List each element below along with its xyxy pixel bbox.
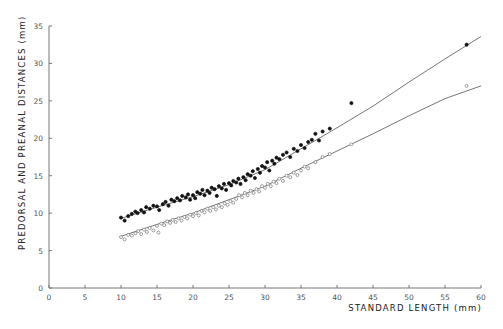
predorsal-point (263, 166, 266, 169)
predorsal-point (222, 182, 225, 185)
predorsal-point (189, 198, 192, 201)
predorsal-point (465, 43, 468, 46)
preanal-point (145, 230, 148, 233)
y-tick-label: 15 (33, 172, 43, 181)
y-tick-label: 0 (38, 284, 43, 293)
preanal-point (215, 208, 218, 211)
x-tick-label: 20 (188, 293, 198, 302)
predorsal-point (310, 138, 313, 141)
preanal-point (269, 185, 272, 188)
preanal-point (152, 229, 155, 232)
x-tick-label: 50 (404, 293, 414, 302)
preanal-point (223, 202, 226, 205)
preanal-point (292, 171, 295, 174)
preanal-point (197, 214, 200, 217)
predorsal-point (242, 176, 245, 179)
predorsal-point (237, 177, 240, 180)
preanal-point (209, 209, 212, 212)
predorsal-point (217, 185, 220, 188)
preanal-point (192, 215, 195, 218)
y-tick-label: 35 (33, 22, 43, 31)
predorsal-point (289, 155, 292, 158)
preanal-point (328, 153, 331, 156)
preanal-point (171, 218, 174, 221)
preanal-point (127, 233, 130, 236)
axes: 05101520253035404550556005101520253035 (33, 22, 486, 302)
preanal-point (130, 234, 133, 237)
predorsal-point (178, 199, 181, 202)
x-tick-label: 30 (260, 293, 270, 302)
predorsal-point (225, 188, 228, 191)
predorsal-point (140, 209, 143, 212)
predorsal-point (281, 153, 284, 156)
predorsal-point (303, 146, 306, 149)
predorsal-point (123, 219, 126, 222)
predorsal-point (203, 194, 206, 197)
predorsal-point (230, 184, 233, 187)
predorsal-point (136, 212, 139, 215)
predorsal-point (314, 132, 317, 135)
predorsal-point (184, 196, 187, 199)
preanal-point (212, 206, 215, 209)
preanal-point (243, 191, 246, 194)
predorsal-point (278, 158, 281, 161)
preanal-point (232, 201, 235, 204)
predorsal-point (152, 204, 155, 207)
y-tick-label: 20 (33, 134, 43, 143)
predorsal-point (155, 205, 158, 208)
preanal-point (289, 176, 292, 179)
x-tick-label: 40 (332, 293, 342, 302)
predorsal-point (215, 194, 218, 197)
preanal-point (278, 177, 281, 180)
predorsal-point (208, 191, 211, 194)
preanal-point (120, 236, 123, 239)
x-tick-label: 45 (368, 293, 378, 302)
y-axis-title: PREDORSAL AND PREANAL DISTANCES (mm) (17, 15, 27, 250)
predorsal-point (296, 149, 299, 152)
predorsal-point (258, 171, 261, 174)
predorsal-point (127, 215, 130, 218)
predorsal-point (244, 179, 247, 182)
predorsal-point (173, 200, 176, 203)
x-tick-label: 5 (83, 293, 88, 302)
predorsal-point (130, 212, 133, 215)
preanal-point (186, 217, 189, 220)
preanal-point (148, 227, 151, 230)
predorsal-point (239, 182, 242, 185)
preanal-point (261, 185, 264, 188)
y-tick-label: 5 (38, 247, 43, 256)
predorsal-point (307, 140, 310, 143)
predorsal-fit-line (121, 37, 481, 219)
preanal-point (238, 194, 241, 197)
predorsal-point (164, 200, 167, 203)
preanal-point (303, 165, 306, 168)
predorsal-point (119, 216, 122, 219)
x-tick-label: 60 (476, 293, 486, 302)
preanal-point (282, 180, 285, 183)
predorsal-point (273, 162, 276, 165)
y-tick-label: 25 (33, 97, 43, 106)
preanal-point (314, 161, 317, 164)
preanal-point (143, 228, 146, 231)
preanal-point (321, 156, 324, 159)
predorsal-point (266, 161, 269, 164)
predorsal-point (142, 211, 145, 214)
preanal-point (226, 203, 229, 206)
preanal-point (200, 209, 203, 212)
preanal-point (252, 191, 255, 194)
predorsal-point (317, 139, 320, 142)
predorsal-point (199, 192, 202, 195)
predorsal-point (256, 167, 259, 170)
preanal-point (266, 182, 269, 185)
preanal-point (137, 230, 140, 233)
preanal-point (166, 220, 169, 223)
preanal-point (249, 189, 252, 192)
predorsal-point (161, 203, 164, 206)
preanal-point (206, 207, 209, 210)
preanal-point (264, 186, 267, 189)
preanal-fit-line (121, 86, 481, 236)
preanal-point (177, 217, 180, 220)
x-tick-label: 55 (440, 293, 450, 302)
preanal-point (296, 174, 299, 177)
predorsal-point (235, 181, 238, 184)
